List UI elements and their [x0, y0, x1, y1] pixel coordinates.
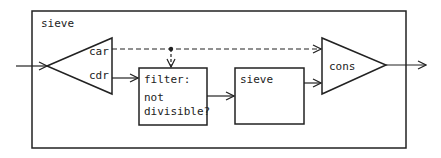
cons-label: cons [329, 60, 356, 73]
outer-sieve-label: sieve [41, 17, 74, 30]
filter-label-2: not [144, 91, 164, 104]
filter-label-3: divisible? [144, 105, 210, 118]
car-label: car [89, 45, 109, 58]
cdr-label: cdr [89, 69, 109, 82]
sieve-diagram: sieve car cdr filter: not divisible? sie… [0, 0, 441, 158]
filter-label-1: filter: [144, 73, 190, 86]
inner-sieve-label: sieve [240, 73, 273, 86]
